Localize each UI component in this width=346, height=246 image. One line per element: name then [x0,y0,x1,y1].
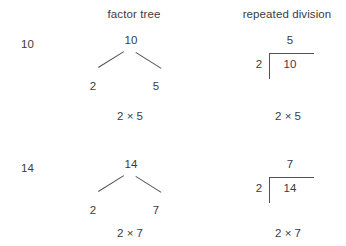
division-divisor-2-row2: 2 [253,182,265,194]
factor-tree-branch-left-14 [98,175,124,192]
division-bracket-top-line-14 [269,177,314,178]
row-label-14: 14 [21,162,34,174]
division-dividend-14: 14 [277,182,303,194]
division-bracket-top-line-10 [269,53,314,54]
factor-tree-leaf-right-7: 7 [149,204,163,216]
factor-tree-branch-right-14 [135,176,161,193]
factor-tree-branch-right-10 [135,52,161,69]
division-bracket-vertical-line-14 [269,177,270,203]
column-header-factor-tree: factor tree [78,8,190,20]
column-header-repeated-division: repeated division [222,8,346,20]
division-quotient-5: 5 [277,34,303,46]
factor-tree-result-10: 2 × 5 [104,110,156,122]
division-dividend-10: 10 [277,58,303,70]
division-bracket-vertical-line-10 [269,53,270,79]
division-result-14: 2 × 7 [262,227,314,239]
row-label-10: 10 [21,38,34,50]
factor-tree-leaf-left-2: 2 [86,80,100,92]
factor-tree-root-10: 10 [118,34,144,46]
prime-factorization-figure: factor tree repeated division 10 10 2 5 … [0,0,346,246]
division-quotient-7: 7 [277,158,303,170]
factor-tree-root-14: 14 [118,158,144,170]
factor-tree-result-14: 2 × 7 [104,227,156,239]
factor-tree-leaf-left-2-row2: 2 [86,204,100,216]
division-divisor-2: 2 [253,58,265,70]
factor-tree-branch-left-10 [98,51,124,68]
division-result-10: 2 × 5 [262,110,314,122]
factor-tree-leaf-right-5: 5 [149,80,163,92]
